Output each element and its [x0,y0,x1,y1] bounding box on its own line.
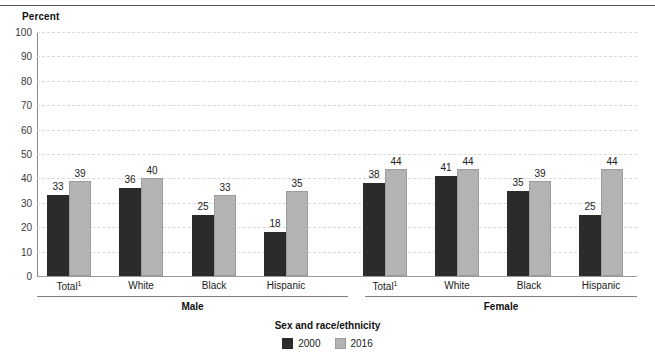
bar-value-label: 33 [52,181,63,192]
bar-value-label: 25 [197,201,208,212]
bar-2016[interactable]: 35 [286,191,308,276]
bar-2016[interactable]: 44 [385,169,407,276]
bar-2000[interactable]: 18 [264,232,286,276]
y-axis-tick-label: 60 [21,124,32,135]
bar-value-label: 44 [462,156,473,167]
y-axis-tick-label: 30 [21,197,32,208]
y-axis-title: Percent [22,11,59,22]
bar-2000[interactable]: 25 [192,215,214,276]
x-axis-category-label: Hispanic [582,280,620,291]
bar-value-label: 18 [269,218,280,229]
bar-2000[interactable]: 33 [47,195,69,276]
bar-value-label: 44 [606,156,617,167]
category-label-text: Black [517,280,541,291]
bar-2016[interactable]: 44 [457,169,479,276]
legend-item-2016[interactable]: 2016 [335,338,373,349]
chart-legend: 20002016 [0,338,655,349]
bar-value-label: 40 [146,165,157,176]
group-underline [365,296,637,297]
y-axis-tick-label: 0 [26,271,32,282]
y-axis-tick-label: 20 [21,222,32,233]
category-label-text: Hispanic [267,280,305,291]
bar-value-label: 38 [368,169,379,180]
bar-value-label: 39 [74,168,85,179]
bar-value-label: 33 [219,182,230,193]
x-axis-category-label: Hispanic [267,280,305,291]
footnote-marker: 1 [78,280,82,287]
bar-value-label: 41 [440,162,451,173]
legend-swatch-2000 [282,338,293,349]
bar-2016[interactable]: 33 [214,195,236,276]
bar-2016[interactable]: 39 [69,181,91,276]
x-axis-baseline [37,276,637,277]
group-underline [37,296,348,297]
bar-2000[interactable]: 38 [363,183,385,276]
x-axis-category-label: Total1 [372,280,397,292]
category-label-text: Total [56,281,77,292]
bar-value-label: 35 [512,177,523,188]
bar-value-label: 39 [534,168,545,179]
bar-value-label: 36 [124,174,135,185]
y-axis-tick-label: 70 [21,100,32,111]
group-label-female: Female [484,301,518,312]
legend-label: 2000 [298,338,320,349]
legend-label: 2016 [351,338,373,349]
footnote-marker: 1 [394,280,398,287]
bar-2000[interactable]: 35 [507,191,529,276]
category-label-text: Black [202,280,226,291]
x-axis-category-label: Black [202,280,226,291]
bar-2000[interactable]: 36 [119,188,141,276]
y-axis-tick-label: 90 [21,51,32,62]
bar-value-label: 35 [291,178,302,189]
x-axis-category-label: White [128,280,154,291]
category-label-text: White [444,280,470,291]
bars-layer: 33393640253318353844414435392544 [37,32,637,276]
bar-2000[interactable]: 25 [579,215,601,276]
category-label-text: Hispanic [582,280,620,291]
bar-value-label: 25 [584,201,595,212]
y-axis-tick-label: 40 [21,173,32,184]
x-axis-category-label: Black [517,280,541,291]
category-label-text: Total [372,281,393,292]
bar-2016[interactable]: 44 [601,169,623,276]
y-axis-tick-label: 80 [21,75,32,86]
x-axis-category-label: Total1 [56,280,81,292]
bar-2016[interactable]: 40 [141,178,163,276]
bar-2000[interactable]: 41 [435,176,457,276]
bar-value-label: 44 [390,156,401,167]
legend-item-2000[interactable]: 2000 [282,338,320,349]
legend-swatch-2016 [335,338,346,349]
y-axis-tick-label: 50 [21,149,32,160]
y-axis-tick-label: 10 [21,246,32,257]
y-axis-tick-label: 100 [15,27,32,38]
bar-2016[interactable]: 39 [529,181,551,276]
top-divider-rule [0,5,655,6]
x-axis-category-label: White [444,280,470,291]
x-axis-title: Sex and race/ethnicity [0,320,655,331]
category-label-text: White [128,280,154,291]
group-label-male: Male [181,301,203,312]
